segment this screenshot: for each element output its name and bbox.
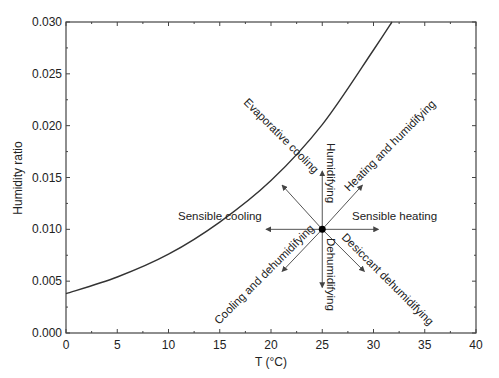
label-left: Sensible cooling bbox=[178, 210, 262, 222]
state-point bbox=[319, 226, 326, 233]
x-tick-label: 20 bbox=[264, 338, 278, 352]
y-tick-label: 0.005 bbox=[32, 274, 62, 288]
x-tick-label: 30 bbox=[367, 338, 381, 352]
x-tick-label: 25 bbox=[316, 338, 330, 352]
x-tick-label: 0 bbox=[63, 338, 70, 352]
x-tick-label: 40 bbox=[469, 338, 483, 352]
label-down-right: Desiccant dehumidifying bbox=[340, 231, 437, 328]
label-up: Humidifying bbox=[325, 143, 337, 203]
x-axis-label: T (°C) bbox=[255, 355, 287, 369]
process-labels: Sensible heatingSensible coolingHumidify… bbox=[178, 96, 438, 328]
x-tick-label: 10 bbox=[162, 338, 176, 352]
process-arrows bbox=[266, 171, 378, 287]
x-tick-label: 15 bbox=[213, 338, 227, 352]
y-tick-label: 0.020 bbox=[32, 119, 62, 133]
y-tick-label: 0.010 bbox=[32, 222, 62, 236]
label-down-left: Cooling and dehumidifying bbox=[212, 222, 316, 326]
arrow-up-left bbox=[282, 185, 322, 229]
label-up-right: Heating and humidifying bbox=[342, 98, 438, 194]
y-tick-label: 0.015 bbox=[32, 171, 62, 185]
label-down: Dehumidifying bbox=[325, 238, 337, 311]
y-tick-label: 0.030 bbox=[32, 15, 62, 29]
y-tick-label: 0.025 bbox=[32, 67, 62, 81]
y-axis-label: Humidity ratio bbox=[11, 141, 25, 215]
plot-frame bbox=[66, 22, 476, 333]
y-tick-label: 0.000 bbox=[32, 326, 62, 340]
x-tick-label: 35 bbox=[418, 338, 432, 352]
saturation-line bbox=[66, 22, 392, 294]
label-up-left: Evaporative cooling bbox=[242, 96, 321, 175]
label-right: Sensible heating bbox=[352, 210, 437, 222]
psychrometric-chart: 05101520253035400.0000.0050.0100.0150.02… bbox=[0, 0, 499, 378]
saturation-curve bbox=[66, 22, 392, 294]
x-tick-label: 5 bbox=[114, 338, 121, 352]
